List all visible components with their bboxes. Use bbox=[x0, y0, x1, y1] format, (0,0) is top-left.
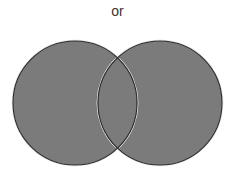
venn-fills bbox=[13, 41, 222, 165]
right-set-fill bbox=[98, 41, 222, 165]
venn-diagram bbox=[0, 0, 235, 179]
